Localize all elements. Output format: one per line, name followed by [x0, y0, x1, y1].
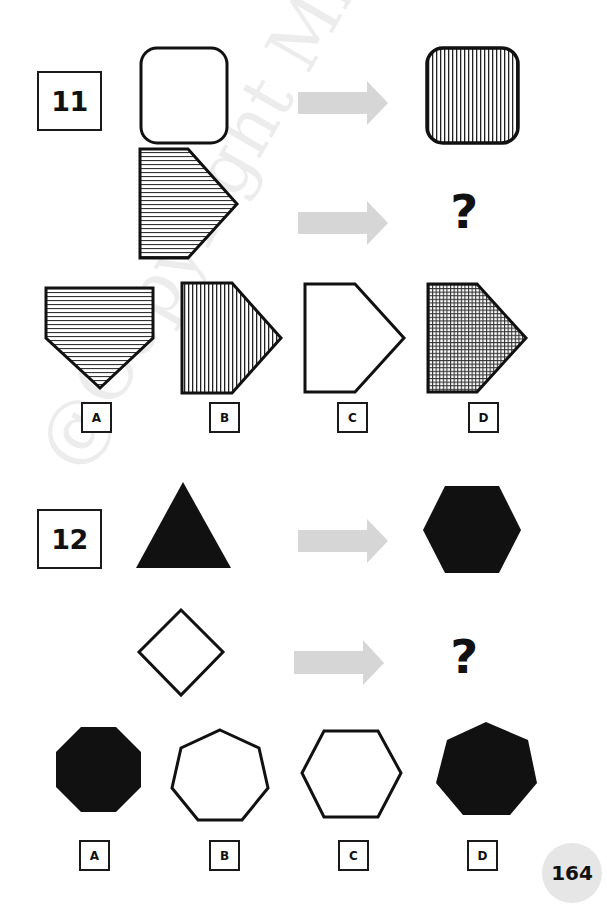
q12-row1-input-triangle [136, 482, 231, 568]
q12-row2-input-diamond [139, 610, 223, 695]
q11-row2-input-pentagon-striped [140, 149, 237, 258]
q12-option-d-label[interactable]: D [467, 840, 498, 871]
q11-option-c-label[interactable]: C [337, 402, 368, 433]
q11-option-b-shape[interactable] [182, 283, 281, 393]
q12-option-c-shape[interactable] [302, 731, 401, 817]
question-12-number: 12 [37, 509, 102, 569]
q12-option-d-shape[interactable] [436, 722, 537, 815]
q11-option-d-label[interactable]: D [468, 402, 499, 433]
q12-option-b-shape[interactable] [172, 730, 268, 820]
q12-option-b-label[interactable]: B [209, 840, 240, 871]
q12-option-a-label[interactable]: A [79, 840, 110, 871]
question-11-number: 11 [37, 71, 102, 131]
q12-option-a-shape[interactable] [56, 727, 141, 812]
q11-option-d-shape[interactable] [428, 284, 526, 392]
q11-option-a-label[interactable]: A [81, 402, 112, 433]
q12-unknown-question-mark-icon: ? [450, 634, 478, 680]
q11-row1-input-rounded-square [141, 48, 227, 143]
q11-option-a-shape[interactable] [46, 288, 153, 388]
q12-row1-arrow-icon [298, 519, 388, 563]
page-number-badge: 164 [542, 843, 602, 903]
q12-row2-arrow-icon [294, 640, 384, 685]
q11-option-b-label[interactable]: B [209, 402, 240, 433]
puzzle-figures [0, 0, 607, 918]
q11-row2-arrow-icon [298, 201, 388, 245]
q12-row1-output-hexagon [423, 486, 521, 573]
q11-row1-output-rounded-square-striped [427, 48, 518, 143]
q11-row1-arrow-icon [298, 81, 388, 125]
q11-unknown-question-mark-icon: ? [450, 189, 478, 235]
q12-option-c-label[interactable]: C [338, 840, 369, 871]
q11-option-c-shape[interactable] [305, 284, 404, 392]
